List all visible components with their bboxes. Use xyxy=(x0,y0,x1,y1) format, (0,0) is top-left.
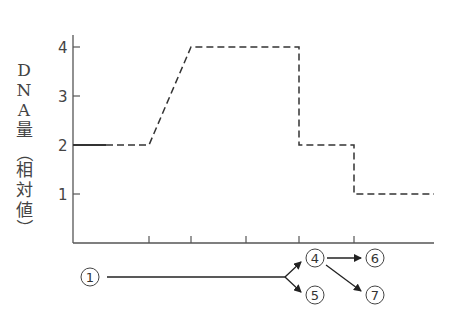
axes xyxy=(73,35,434,243)
y-tick-label-1: 1 xyxy=(58,186,68,204)
chart-canvas: 4 3 2 1 1 4 5 6 7 xyxy=(0,0,464,327)
node-1: 1 xyxy=(86,270,94,285)
lineage-diagram: 1 4 5 6 7 xyxy=(81,249,384,304)
node-5: 5 xyxy=(311,288,319,303)
y-tick-label-3: 3 xyxy=(58,88,68,106)
node-7: 7 xyxy=(371,288,379,303)
y-ticks xyxy=(73,47,80,194)
x-ticks xyxy=(149,236,354,243)
node-6: 6 xyxy=(371,251,379,266)
node-4: 4 xyxy=(311,251,319,266)
y-tick-label-2: 2 xyxy=(58,137,68,155)
y-tick-label-4: 4 xyxy=(58,39,68,57)
dna-amount-line xyxy=(73,47,434,194)
